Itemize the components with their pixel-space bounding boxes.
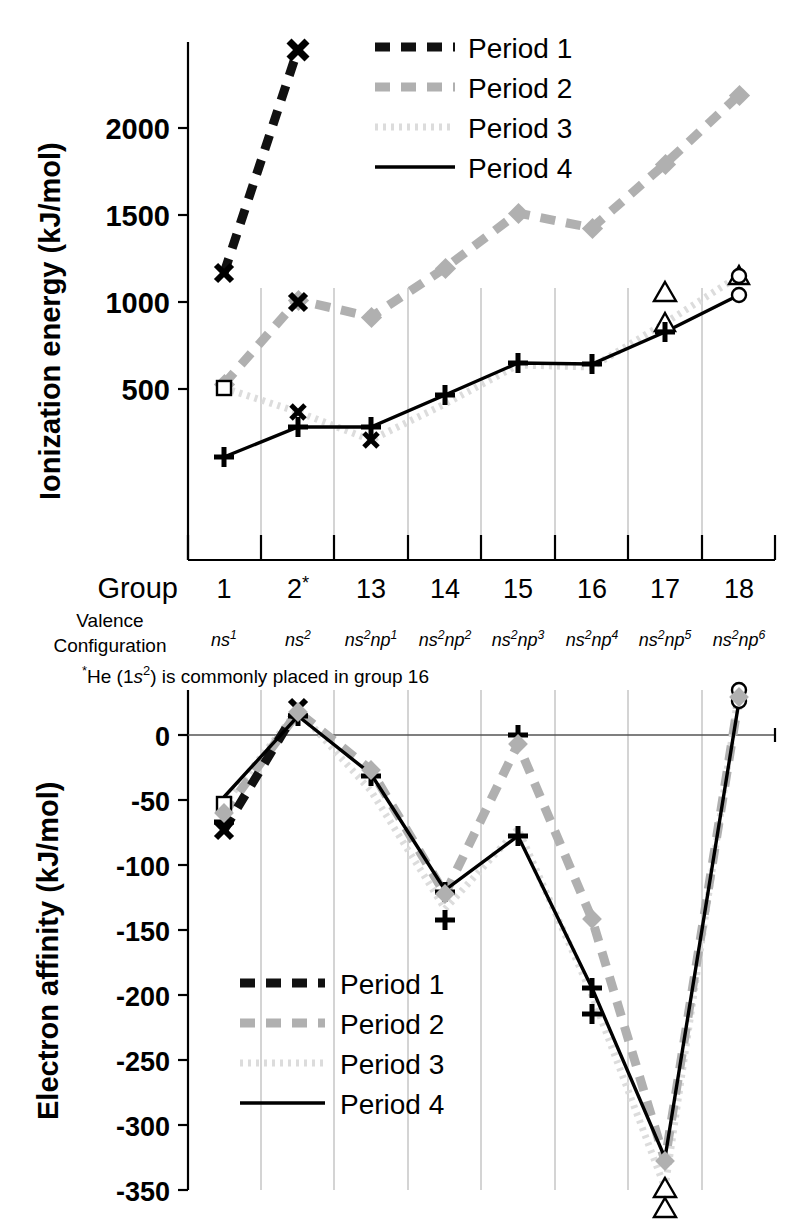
xtick-group-2: 2* [287, 572, 309, 604]
ea-legend-label-period4: Period 4 [340, 1089, 444, 1120]
ie-ytick-1500: 1500 [105, 200, 170, 232]
ie-series-period1-line [224, 49, 298, 273]
valence-head-line2: Configuration [53, 635, 166, 656]
figure-root: 2000 1500 1000 500 Ionization energy (kJ… [0, 0, 788, 1227]
ie-gridlines [261, 288, 702, 560]
periodic-trends-figure: 2000 1500 1000 500 Ionization energy (kJ… [0, 0, 788, 1227]
ea-p3-plus-g14 [435, 910, 455, 930]
valence-group-13: ns2np1 [345, 628, 398, 650]
ea-p4-triangle-g17 [654, 1178, 676, 1197]
ie-legend-label-period2: Period 2 [468, 73, 572, 104]
xtick-group-1: 1 [216, 574, 231, 604]
ie-period4-markers [214, 322, 675, 467]
ea-ytick--100: -100 [116, 852, 170, 882]
ea-ytick--200: -200 [116, 982, 170, 1012]
valence-group-16: ns2np4 [566, 628, 619, 650]
figure-footnote: *He (1s2) is commonly placed in group 16 [82, 663, 429, 687]
valence-group-15: ns2np3 [492, 628, 545, 650]
ie-legend-item-period1[interactable]: Period 1 [375, 33, 572, 64]
ea-ytick--250: -250 [116, 1047, 170, 1077]
electron-affinity-chart: 0 -50 -100 -150 -200 -250 -300 -350 Elec… [32, 683, 775, 1217]
valence-group-18: ns2np6 [713, 628, 766, 650]
ionization-energy-chart: 2000 1500 1000 500 Ionization energy (kJ… [34, 33, 775, 560]
ie-legend-item-period3[interactable]: Period 3 [375, 113, 572, 144]
valence-group-14: ns2np2 [419, 628, 472, 650]
ie-y-axis-title: Ionization energy (kJ/mol) [34, 142, 66, 500]
ea-legend-item-period4[interactable]: Period 4 [240, 1089, 444, 1120]
ea-legend: Period 1 Period 2 Period 3 Period 4 [240, 969, 444, 1120]
ie-legend-item-period2[interactable]: Period 2 [375, 73, 572, 104]
xtick-group-18: 18 [724, 574, 754, 604]
xtick-group-15: 15 [503, 574, 533, 604]
ie-ytick-1000: 1000 [105, 287, 170, 319]
valence-configuration-row: Valence Configuration ns1 ns2 ns2np1 ns2… [53, 610, 765, 687]
ea-legend-label-period1: Period 1 [340, 969, 444, 1000]
ie-p3-triangle-g17 [654, 282, 676, 301]
ea-legend-label-period3: Period 3 [340, 1049, 444, 1080]
ea-ytick-0: 0 [155, 722, 170, 752]
valence-group-2: ns2 [285, 628, 311, 650]
ie-legend-label-period4: Period 4 [468, 153, 572, 184]
ea-y-ticks: 0 -50 -100 -150 -200 -250 -300 -350 [116, 722, 188, 1207]
valence-group-17: ns2np5 [639, 628, 692, 650]
ea-legend-item-period2[interactable]: Period 2 [240, 1009, 444, 1040]
ea-p3-triangle-g17 [654, 1198, 676, 1217]
xtick-group-17: 17 [650, 574, 680, 604]
ea-ytick--350: -350 [116, 1177, 170, 1207]
ie-y-ticks: 2000 1500 1000 500 [105, 113, 188, 406]
ie-p4-circle-g18 [732, 288, 746, 302]
ie-legend-label-period1: Period 1 [468, 33, 572, 64]
ie-legend-label-period3: Period 3 [468, 113, 572, 144]
ea-ytick--50: -50 [131, 787, 170, 817]
valence-head-line1: Valence [76, 610, 143, 631]
xtick-group-16: 16 [577, 574, 607, 604]
ea-legend-item-period3[interactable]: Period 3 [240, 1049, 444, 1080]
valence-group-1: ns1 [211, 628, 237, 650]
ie-legend: Period 1 Period 2 Period 3 Period 4 [375, 33, 572, 184]
ea-ytick--300: -300 [116, 1112, 170, 1142]
ea-legend-label-period2: Period 2 [340, 1009, 444, 1040]
group-axis-row: Group 1 2* 13 14 15 16 17 18 [97, 535, 775, 604]
group-row-label: Group [97, 572, 178, 604]
ea-legend-item-period1[interactable]: Period 1 [240, 969, 444, 1000]
ea-y-axis-title: Electron affinity (kJ/mol) [32, 782, 64, 1120]
ie-ytick-500: 500 [122, 374, 170, 406]
ie-legend-item-period4[interactable]: Period 4 [375, 153, 572, 184]
xtick-group-13: 13 [356, 574, 386, 604]
ie-ytick-2000: 2000 [105, 113, 170, 145]
xtick-group-14: 14 [430, 574, 460, 604]
ea-ytick--150: -150 [116, 917, 170, 947]
